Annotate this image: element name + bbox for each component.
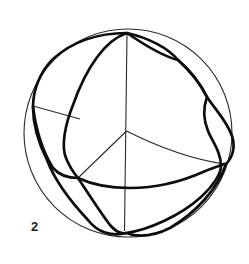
great-circle-vertical: [64, 33, 221, 233]
great-circle-horizontal: [33, 107, 224, 188]
sphere-outline-circle: [24, 29, 232, 237]
front-axis-line: [78, 131, 127, 178]
sphere-diagram: 2: [0, 0, 249, 264]
figure-number-label: 2: [31, 219, 38, 234]
